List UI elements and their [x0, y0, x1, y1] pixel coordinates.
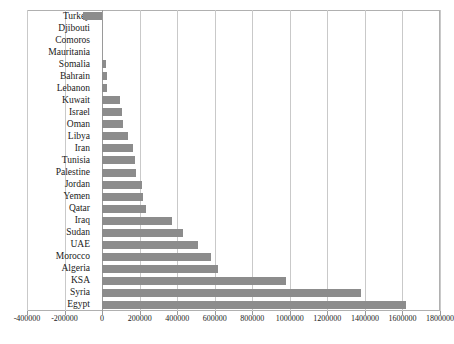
chart-row: Israel	[0, 106, 446, 118]
category-label: Iraq	[28, 215, 90, 226]
bar	[102, 96, 120, 104]
x-tick-label: 1400000	[351, 313, 379, 325]
category-label: Turkey	[28, 11, 90, 22]
x-tick-label: 1600000	[388, 313, 416, 325]
bar	[102, 289, 361, 297]
chart-row: Yemen	[0, 191, 446, 203]
chart-row: Tunisia	[0, 154, 446, 166]
category-label: Sudan	[28, 227, 90, 238]
x-tick-label: 200000	[128, 313, 152, 325]
x-axis-tick-labels: -400000-20000002000004000006000008000001…	[0, 313, 446, 327]
bar-rows-layer: TurkeyDjiboutiComorosMauritaniaSomaliaBa…	[0, 10, 446, 311]
category-label: Mauritania	[28, 47, 90, 58]
bar	[102, 217, 172, 225]
bar	[102, 241, 198, 249]
category-label: KSA	[28, 275, 90, 286]
category-label: Comoros	[28, 35, 90, 46]
x-tick-label: 1000000	[276, 313, 304, 325]
category-label: Palestine	[28, 167, 90, 178]
category-label: UAE	[28, 239, 90, 250]
bar	[102, 156, 135, 164]
bar	[102, 72, 107, 80]
chart-row: Sudan	[0, 227, 446, 239]
chart-row: Turkey	[0, 10, 446, 22]
chart-row: Somalia	[0, 58, 446, 70]
chart-row: Bahrain	[0, 70, 446, 82]
bar	[83, 12, 102, 20]
category-label: Lebanon	[28, 83, 90, 94]
chart-row: Syria	[0, 287, 446, 299]
bar	[102, 301, 406, 309]
x-tick-label: 1800000	[426, 313, 454, 325]
bar	[102, 144, 133, 152]
category-label: Kuwait	[28, 95, 90, 106]
figure-caption	[0, 333, 446, 344]
bar	[102, 181, 141, 189]
chart-row: Palestine	[0, 167, 446, 179]
chart-row: Iran	[0, 142, 446, 154]
category-label: Bahrain	[28, 71, 90, 82]
chart-row: Egypt	[0, 299, 446, 311]
category-label: Algeria	[28, 263, 90, 274]
bar	[102, 60, 106, 68]
chart-row: UAE	[0, 239, 446, 251]
bar	[102, 84, 107, 92]
chart-row: Jordan	[0, 179, 446, 191]
category-label: Jordan	[28, 179, 90, 190]
chart-row: Comoros	[0, 34, 446, 46]
category-label: Syria	[28, 287, 90, 298]
chart-row: Mauritania	[0, 46, 446, 58]
chart-row: Morocco	[0, 251, 446, 263]
category-label: Iran	[28, 143, 90, 154]
x-tick-label: -200000	[51, 313, 78, 325]
category-label: Djibouti	[28, 23, 90, 34]
x-tick-label: 600000	[203, 313, 227, 325]
bar	[102, 132, 128, 140]
chart-row: KSA	[0, 275, 446, 287]
category-label: Morocco	[28, 251, 90, 262]
bar	[102, 193, 143, 201]
category-label: Qatar	[28, 203, 90, 214]
chart-row: Qatar	[0, 203, 446, 215]
chart-row: Oman	[0, 118, 446, 130]
chart-row: Algeria	[0, 263, 446, 275]
bar	[102, 108, 122, 116]
category-label: Egypt	[28, 299, 90, 310]
x-tick-label: 0	[100, 313, 104, 325]
category-label: Libya	[28, 131, 90, 142]
bar	[102, 265, 218, 273]
x-tick-label: 1200000	[313, 313, 341, 325]
category-label: Yemen	[28, 191, 90, 202]
chart-row: Djibouti	[0, 22, 446, 34]
chart-row: Iraq	[0, 215, 446, 227]
bar	[102, 120, 123, 128]
chart-row: Kuwait	[0, 94, 446, 106]
category-label: Tunisia	[28, 155, 90, 166]
chart-row: Lebanon	[0, 82, 446, 94]
bar	[102, 229, 183, 237]
bar	[102, 253, 211, 261]
x-tick-label: -400000	[14, 313, 41, 325]
category-label: Somalia	[28, 59, 90, 70]
category-label: Israel	[28, 107, 90, 118]
chart-row: Libya	[0, 130, 446, 142]
bar	[102, 205, 146, 213]
bar	[102, 277, 286, 285]
x-tick-label: 400000	[165, 313, 189, 325]
x-tick-label: 800000	[240, 313, 264, 325]
bar	[102, 169, 136, 177]
category-label: Oman	[28, 119, 90, 130]
